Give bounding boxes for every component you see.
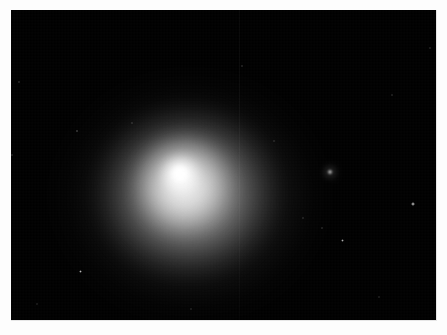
field-star xyxy=(36,303,37,304)
field-star xyxy=(273,140,274,141)
comet-nucleus xyxy=(172,166,189,183)
comet-inner-coma xyxy=(94,106,280,278)
field-star xyxy=(190,308,191,309)
field-star xyxy=(391,94,393,96)
comet-coma xyxy=(58,78,322,314)
astronomical-image-frame xyxy=(11,10,437,321)
frame-edge-right xyxy=(436,10,437,321)
frame-edge-bottom xyxy=(11,320,437,321)
field-star xyxy=(341,239,344,242)
field-star xyxy=(411,202,414,205)
sensor-noise-texture xyxy=(11,10,437,321)
field-star xyxy=(327,169,332,174)
field-star xyxy=(378,296,380,298)
field-star xyxy=(18,81,20,83)
field-star xyxy=(76,130,79,133)
field-star xyxy=(321,227,323,229)
field-star xyxy=(302,217,304,219)
comet-nucleus-glow xyxy=(159,153,200,194)
field-star xyxy=(131,122,133,124)
comet-central-condensation xyxy=(131,132,235,236)
ccd-column-artifact xyxy=(239,10,240,321)
screenshot-canvas xyxy=(0,0,447,335)
field-star xyxy=(429,47,431,49)
field-star xyxy=(241,65,243,67)
field-star xyxy=(79,270,82,273)
field-star xyxy=(11,154,13,156)
